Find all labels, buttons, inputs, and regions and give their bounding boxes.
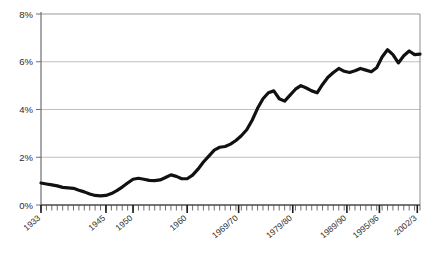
x-tick-label-0: 1933 xyxy=(21,213,42,233)
y-axis-labels: 8% 6% 4% 2% 0% xyxy=(19,9,33,211)
y-tick-label-0: 0% xyxy=(19,200,33,211)
x-tick-label-7: 1995/96 xyxy=(351,213,381,241)
x-tick-label-1: 1945 xyxy=(86,213,107,233)
x-tick-label-4: 1969/70 xyxy=(210,213,240,241)
y-tick-label-4: 4% xyxy=(19,104,33,115)
y-tick-label-2: 2% xyxy=(19,152,33,163)
x-tick-label-5: 1979/80 xyxy=(264,213,294,241)
y-tick-label-8: 8% xyxy=(19,9,33,20)
x-tick-marks xyxy=(41,205,420,213)
x-tick-label-6: 1989/90 xyxy=(318,213,348,241)
x-axis-labels: 19331945195019601969/701979/801989/90199… xyxy=(21,213,418,241)
x-tick-label-8: 2002/3 xyxy=(392,213,419,238)
chart-canvas: 8% 6% 4% 2% 0% 19331945195019601969/7019… xyxy=(0,0,435,256)
y-tick-marks xyxy=(36,14,41,205)
x-tick-label-3: 1960 xyxy=(168,213,189,233)
x-tick-label-2: 1950 xyxy=(113,213,134,233)
line-chart: 8% 6% 4% 2% 0% 19331945195019601969/7019… xyxy=(0,0,435,256)
y-tick-label-6: 6% xyxy=(19,56,33,67)
